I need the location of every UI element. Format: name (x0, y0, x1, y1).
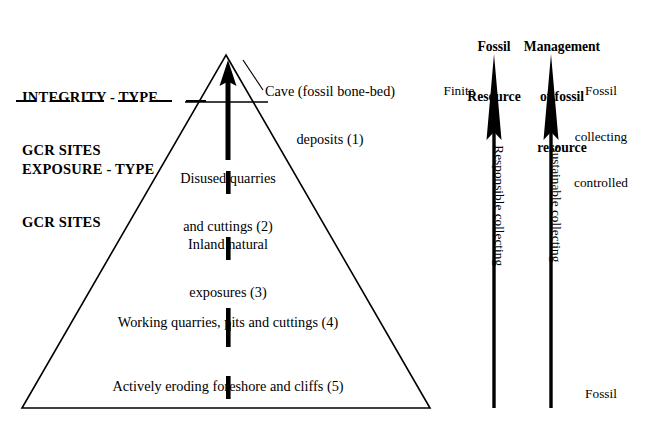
exposure-type-gcr-sites-label: EXPOSURE - TYPE GCR SITES (22, 126, 154, 268)
infinite-label: 'Infinite' (437, 391, 481, 425)
pyramid-tier-1-label: Cave (fossil bone-bed) deposits (1) (265, 50, 395, 180)
fossil-collecting-controlled-line3: controlled (574, 175, 628, 190)
finite-label-text: Finite (443, 83, 474, 98)
integrity-label-line1: INTEGRITY - TYPE (22, 89, 158, 107)
tier-1-line2: deposits (1) (265, 131, 395, 147)
pyramid-tier-5-label: Actively eroding foreshore and cliffs (5… (112, 345, 343, 425)
exposure-label-line2: GCR SITES (22, 214, 154, 232)
fossil-collecting-conservation-line1: Fossil (567, 386, 635, 401)
fossil-collecting-conservation-label: Fossil collecting key part of conservati… (567, 355, 635, 425)
tier-3-line1: Inland natural (188, 236, 268, 252)
fossil-resource-heading-line2: Resource (467, 89, 520, 106)
fossil-resource-column-heading: Fossil Resource (467, 5, 520, 140)
tier-1-line1: Cave (fossil bone-bed) (265, 83, 395, 99)
responsible-collecting-text: Responsible collecting (492, 145, 507, 266)
tier-5-line1: Actively eroding foreshore and cliffs (5… (112, 378, 343, 394)
tier-2-line1: Disused quarries (180, 170, 276, 186)
finite-label: Finite (443, 52, 474, 129)
fossil-collecting-controlled-line2: collecting (574, 129, 628, 144)
cave-label-leader-line (243, 60, 263, 90)
fossil-collecting-controlled-label: Fossil collecting controlled (574, 52, 628, 222)
sustainable-collecting-text: Sustainable collecting (549, 145, 564, 262)
fossil-resource-diagram: INTEGRITY - TYPE GCR SITES EXPOSURE - TY… (0, 0, 645, 425)
fossil-resource-heading-line1: Fossil (467, 39, 520, 56)
tier-4-line1: Working quarries, pits and cuttings (4) (118, 314, 338, 330)
exposure-label-line1: EXPOSURE - TYPE (22, 161, 154, 179)
sustainable-collecting-axis-label: Sustainable collecting (534, 132, 579, 262)
responsible-collecting-axis-label: Responsible collecting (477, 132, 522, 266)
fossil-collecting-controlled-line1: Fossil (574, 83, 628, 98)
